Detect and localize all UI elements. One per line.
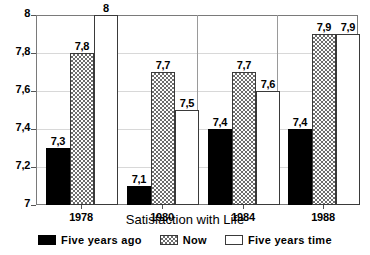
bar-1980-now[interactable]: 7,7 xyxy=(151,72,175,205)
y-tick-label: 7,4 xyxy=(16,121,30,133)
bar-chart: 8 7,8 7,6 7,4 7,2 7 xyxy=(0,0,370,255)
bar-1980-five-years-ago[interactable]: 7,1 xyxy=(127,186,151,205)
legend-label: Five years time xyxy=(248,234,332,246)
legend-item-five-years-time[interactable]: Five years time xyxy=(225,234,332,246)
bar-value-label: 7,4 xyxy=(213,116,227,128)
bar-value-label: 7,6 xyxy=(261,78,275,90)
bar-value-label: 7,7 xyxy=(237,59,251,71)
y-tick-label: 7,8 xyxy=(16,45,30,57)
x-tick-mark xyxy=(81,205,82,209)
x-tick-mark xyxy=(162,205,163,209)
bar-group-1980: 7,1 7,7 7,5 1980 xyxy=(117,15,197,205)
bar-1978-five-years-ago[interactable]: 7,3 xyxy=(46,148,70,205)
legend-item-now[interactable]: Now xyxy=(160,234,207,246)
bar-1980-five-years-time[interactable]: 7,5 xyxy=(175,110,199,205)
y-tick-label: 7 xyxy=(24,197,30,209)
bar-value-label: 7,7 xyxy=(156,59,170,71)
bar-value-label: 7,3 xyxy=(51,135,65,147)
bar-1978-five-years-time[interactable]: 8 xyxy=(94,15,118,205)
x-axis-title: Satisfaction with Life xyxy=(0,212,370,227)
y-tick-label: 8 xyxy=(24,7,30,19)
x-tick-mark xyxy=(323,205,324,209)
legend-item-five-years-ago[interactable]: Five years ago xyxy=(38,234,142,246)
legend-swatch-icon xyxy=(38,235,56,245)
y-tick-label: 7,6 xyxy=(16,83,30,95)
legend-label: Now xyxy=(183,234,207,246)
bar-group-1978: 7,3 7,8 8 1978 xyxy=(36,15,116,205)
legend-swatch-icon xyxy=(225,235,243,245)
bar-groups: 7,3 7,8 8 1978 7,1 7,7 7,5 1980 xyxy=(36,15,358,205)
bar-group-1984: 7,4 7,7 7,6 1984 xyxy=(198,15,277,205)
bar-1984-five-years-time[interactable]: 7,6 xyxy=(256,91,280,205)
y-tick-mark xyxy=(31,205,36,206)
x-tick-mark xyxy=(243,205,244,209)
chart-legend: Five years ago Now Five years time xyxy=(0,234,370,246)
legend-label: Five years ago xyxy=(61,234,142,246)
legend-swatch-icon xyxy=(160,235,178,245)
bar-1984-now[interactable]: 7,7 xyxy=(232,72,256,205)
bar-value-label: 8 xyxy=(103,2,109,14)
bar-1988-five-years-ago[interactable]: 7,4 xyxy=(288,129,312,205)
y-axis: 8 7,8 7,6 7,4 7,2 7 xyxy=(0,15,36,205)
bar-value-label: 7,8 xyxy=(75,40,89,52)
bar-value-label: 7,9 xyxy=(341,21,355,33)
bar-1984-five-years-ago[interactable]: 7,4 xyxy=(208,129,232,205)
bar-1988-now[interactable]: 7,9 xyxy=(312,34,336,205)
bar-value-label: 7,9 xyxy=(317,21,331,33)
bar-1988-five-years-time[interactable]: 7,9 xyxy=(336,34,360,205)
bar-value-label: 7,5 xyxy=(180,97,194,109)
y-tick-label: 7,2 xyxy=(16,159,30,171)
bar-value-label: 7,4 xyxy=(293,116,307,128)
bar-value-label: 7,1 xyxy=(132,173,146,185)
bar-1978-now[interactable]: 7,8 xyxy=(70,53,94,205)
bar-group-1988: 7,4 7,9 7,9 1988 xyxy=(278,15,358,205)
